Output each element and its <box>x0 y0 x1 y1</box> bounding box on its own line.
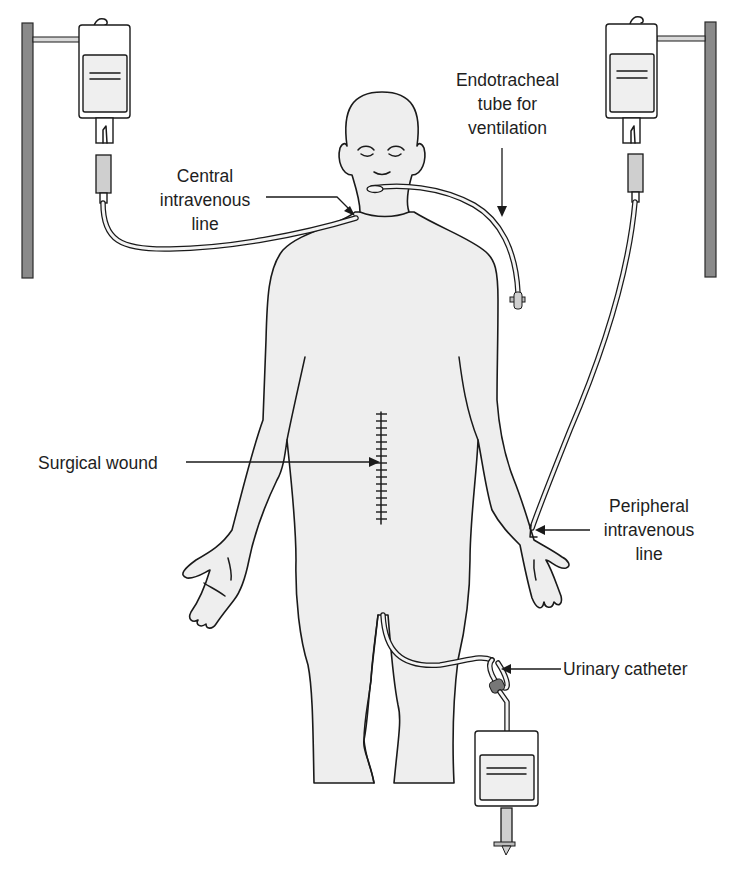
label-line: Urinary catheter <box>563 657 723 681</box>
label-surgical-wound: Surgical wound <box>38 451 184 475</box>
label-peripheral-intravenous-line: Peripheral intravenous line <box>594 494 704 566</box>
label-line: line <box>150 212 260 236</box>
patient-devices-diagram <box>0 0 739 871</box>
label-line: intravenous <box>150 188 260 212</box>
label-line: Endotracheal <box>445 68 570 92</box>
patient-head <box>339 92 425 217</box>
label-endotracheal-tube: Endotracheal tube for ventilation <box>445 68 570 140</box>
label-line: Surgical wound <box>38 451 184 475</box>
label-central-intravenous-line: Central intravenous line <box>150 164 260 236</box>
label-urinary-catheter: Urinary catheter <box>563 657 723 681</box>
label-line: Central <box>150 164 260 188</box>
label-line: tube for <box>445 92 570 116</box>
label-line: Peripheral <box>594 494 704 518</box>
iv-bag-left-icon <box>79 19 130 203</box>
urine-bag-icon <box>475 731 538 855</box>
iv-pole-left <box>22 23 80 278</box>
iv-bag-right-icon <box>606 17 657 202</box>
label-line: line <box>594 542 704 566</box>
iv-pole-right <box>657 22 716 277</box>
peripheral-line-tube <box>530 202 635 537</box>
label-line: ventilation <box>445 116 570 140</box>
label-line: intravenous <box>594 518 704 542</box>
